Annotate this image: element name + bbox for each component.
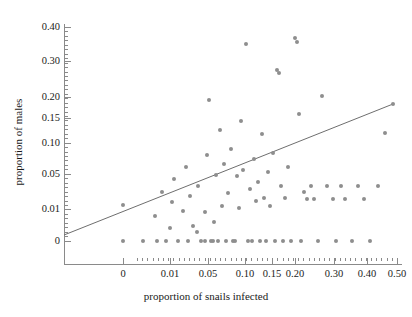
y-tick-minor <box>65 36 68 37</box>
y-tick-minor <box>65 214 68 215</box>
x-tick-minor <box>168 258 169 261</box>
y-tick-minor <box>65 120 68 121</box>
y-tick-minor <box>65 165 68 166</box>
data-point <box>260 132 265 137</box>
data-point <box>239 119 244 124</box>
data-point <box>176 239 181 244</box>
y-tick-minor <box>65 85 68 86</box>
x-tick-label: 0.05 <box>188 268 228 279</box>
x-tick-minor <box>361 258 362 261</box>
x-tick-minor <box>220 258 221 261</box>
data-point <box>271 151 276 156</box>
x-tick-label: 0.01 <box>150 268 190 279</box>
x-tick-minor <box>293 258 294 261</box>
data-point <box>281 239 286 244</box>
x-tick-minor <box>173 258 174 261</box>
y-tick-minor <box>65 156 68 157</box>
y-tick-major <box>65 61 71 62</box>
data-point <box>207 98 212 103</box>
y-tick-minor <box>65 107 68 108</box>
x-tick-minor <box>371 258 372 261</box>
y-tick-minor <box>65 49 68 50</box>
y-tick-minor <box>65 134 68 135</box>
x-tick-minor <box>225 258 226 261</box>
y-tick-minor <box>65 143 68 144</box>
data-point <box>229 147 234 152</box>
data-point <box>331 197 336 202</box>
x-tick-minor <box>392 258 393 261</box>
y-tick-minor <box>65 183 68 184</box>
data-point <box>153 214 158 219</box>
data-point <box>237 206 242 211</box>
data-point <box>141 239 146 244</box>
data-point <box>383 131 388 136</box>
x-tick-minor <box>153 258 154 261</box>
data-point <box>258 239 263 244</box>
y-tick-minor <box>65 169 68 170</box>
y-tick-minor <box>65 241 68 242</box>
data-point <box>277 71 282 76</box>
y-tick-minor <box>65 201 68 202</box>
x-tick-minor <box>324 258 325 261</box>
x-tick-minor <box>158 258 159 261</box>
data-point <box>299 239 304 244</box>
x-tick-minor <box>277 258 278 261</box>
x-axis-title: proportion of snails infected <box>0 290 412 302</box>
x-tick-major <box>170 258 171 264</box>
data-point <box>248 187 253 192</box>
x-tick-minor <box>205 258 206 261</box>
data-point <box>205 153 210 158</box>
x-tick-major <box>295 258 296 264</box>
x-tick-minor <box>309 258 310 261</box>
x-tick-label: 0.20 <box>275 268 315 279</box>
x-tick-minor <box>335 258 336 261</box>
x-tick-major <box>367 258 368 264</box>
y-tick-minor <box>65 160 68 161</box>
y-tick-minor <box>65 174 68 175</box>
y-tick-label: 0.05 <box>28 169 60 179</box>
x-tick-minor <box>231 258 232 261</box>
data-point <box>268 204 273 209</box>
x-tick-minor <box>194 258 195 261</box>
data-point <box>305 197 310 202</box>
y-tick-label: 0.10 <box>28 138 60 148</box>
data-point <box>121 203 126 208</box>
x-tick-minor <box>366 258 367 261</box>
x-tick-minor <box>241 258 242 261</box>
data-point <box>226 191 231 196</box>
data-point <box>320 94 325 99</box>
x-tick-minor <box>267 258 268 261</box>
data-point <box>164 239 169 244</box>
data-point <box>297 112 302 117</box>
data-point <box>121 239 126 244</box>
data-point <box>250 239 255 244</box>
data-point <box>170 200 175 205</box>
x-tick-minor <box>397 258 398 261</box>
data-point <box>309 184 314 189</box>
y-tick-minor <box>65 103 68 104</box>
y-tick-minor <box>65 40 68 41</box>
data-point <box>264 239 269 244</box>
y-tick-minor <box>65 129 68 130</box>
data-point <box>184 165 189 170</box>
regression-line <box>64 104 393 235</box>
x-tick-minor <box>147 258 148 261</box>
x-tick-minor <box>298 258 299 261</box>
data-point <box>188 194 193 199</box>
x-tick-minor <box>340 258 341 261</box>
y-tick-minor <box>65 94 68 95</box>
x-tick-minor <box>179 258 180 261</box>
x-tick-major <box>123 258 124 264</box>
data-point <box>286 165 291 170</box>
x-tick-minor <box>283 258 284 261</box>
x-tick-minor <box>381 258 382 261</box>
x-tick-minor <box>272 258 273 261</box>
data-point <box>362 197 367 202</box>
x-tick-label: 0 <box>103 268 143 279</box>
data-point <box>376 184 381 189</box>
y-tick-minor <box>65 152 68 153</box>
y-tick-label: 0.30 <box>28 56 60 66</box>
y-tick-minor <box>65 196 68 197</box>
y-tick-minor <box>65 58 68 59</box>
data-point <box>254 199 259 204</box>
